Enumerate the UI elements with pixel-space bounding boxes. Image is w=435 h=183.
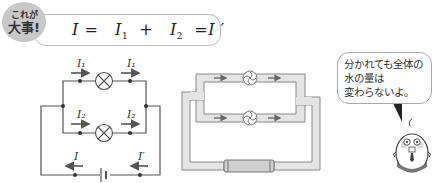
lamp-icon: [96, 125, 113, 142]
mascot-character: [394, 119, 431, 172]
label-bottom-left: I₂: [76, 108, 86, 121]
label-source-left: I: [73, 150, 79, 163]
label-bottom-right: I₂: [126, 108, 136, 121]
resistor-tube: [224, 160, 274, 172]
label-source-right: I′: [137, 150, 145, 163]
bubble-line: 変わらないよ。: [344, 85, 425, 99]
lamp-icon: [96, 73, 113, 90]
label-top-left: I₁: [76, 57, 86, 70]
badge-line1: これが: [11, 10, 38, 20]
waterwheel-icon: [243, 111, 257, 125]
important-badge: これが 大事!: [2, 2, 46, 42]
label-top-right: I₁: [126, 57, 136, 70]
water-pipe-diagram: [182, 71, 320, 172]
waterwheel-icon: [243, 71, 257, 85]
speech-bubble: 分かれても全体の 水の量は 変わらないよ。: [337, 52, 432, 104]
bubble-line: 水の量は: [344, 71, 425, 85]
bubble-tail: [393, 103, 402, 122]
badge-line2: 大事!: [8, 20, 40, 35]
bubble-line: 分かれても全体の: [344, 57, 425, 71]
